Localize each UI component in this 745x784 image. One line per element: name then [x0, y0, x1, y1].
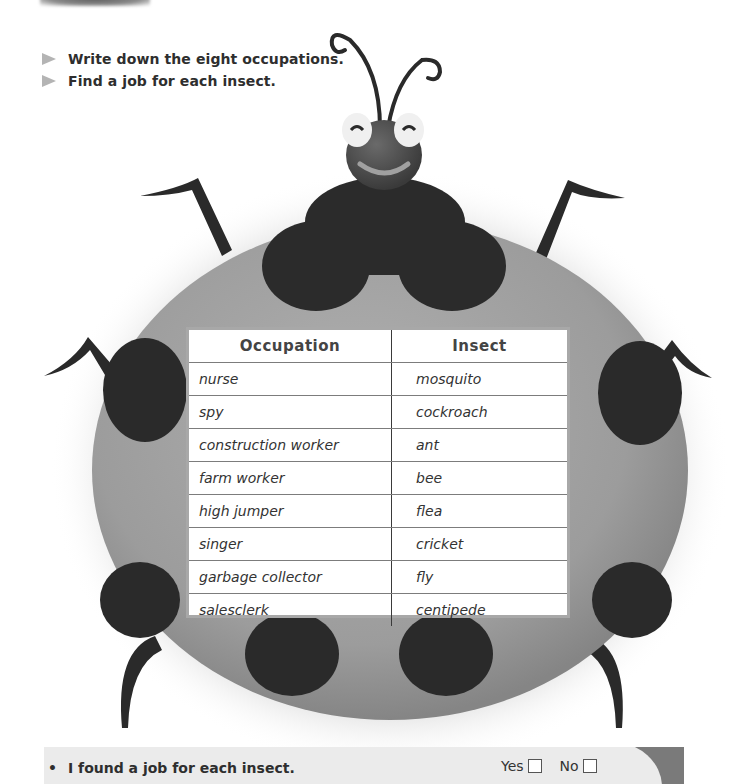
occupation-cell: singer	[189, 528, 392, 561]
insect-cell: cricket	[392, 528, 568, 561]
table-row: farm workerbee	[189, 462, 567, 495]
occupation-cell: nurse	[189, 363, 392, 396]
table-row: nursemosquito	[189, 363, 567, 396]
no-checkbox[interactable]	[583, 759, 597, 773]
occupation-insect-table: Occupation Insect nursemosquito spycockr…	[186, 327, 570, 618]
occupation-cell: garbage collector	[189, 561, 392, 594]
antennae	[332, 35, 440, 128]
yes-label: Yes	[501, 758, 524, 774]
table-row: garbage collectorfly	[189, 561, 567, 594]
header-occupation: Occupation	[189, 330, 392, 363]
occupation-cell: spy	[189, 396, 392, 429]
insect-cell: ant	[392, 429, 568, 462]
occupation-cell: salesclerk	[189, 594, 392, 627]
insect-cell: centipede	[392, 594, 568, 627]
insect-cell: fly	[392, 561, 568, 594]
footer-corner-decoration	[622, 747, 684, 784]
insect-cell: cockroach	[392, 396, 568, 429]
bullet-icon: •	[48, 760, 68, 776]
occupation-cell: high jumper	[189, 495, 392, 528]
occupation-cell: farm worker	[189, 462, 392, 495]
insect-cell: flea	[392, 495, 568, 528]
table-row: construction workerant	[189, 429, 567, 462]
table-row: singercricket	[189, 528, 567, 561]
table-row: high jumperflea	[189, 495, 567, 528]
occupation-cell: construction worker	[189, 429, 392, 462]
self-check-statement: •I found a job for each insect.	[48, 760, 295, 776]
insect-cell: mosquito	[392, 363, 568, 396]
header-insect: Insect	[392, 330, 568, 363]
self-check-options: Yes No	[501, 758, 615, 774]
table-header-row: Occupation Insect	[189, 330, 567, 363]
insect-cell: bee	[392, 462, 568, 495]
no-label: No	[560, 758, 579, 774]
table-row: salesclerkcentipede	[189, 594, 567, 627]
table-row: spycockroach	[189, 396, 567, 429]
statement-text: I found a job for each insect.	[68, 760, 295, 776]
yes-checkbox[interactable]	[528, 759, 542, 773]
